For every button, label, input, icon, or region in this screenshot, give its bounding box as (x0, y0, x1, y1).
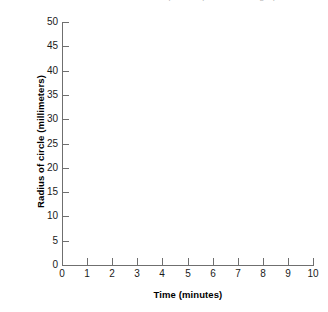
y-axis-title: Radius of circle (millimeters) (35, 27, 46, 257)
x-axis-tick (137, 258, 138, 266)
x-axis-tick (213, 258, 214, 266)
y-axis-tick (62, 22, 69, 23)
x-axis-tick-label: 0 (52, 268, 72, 279)
y-axis-tick-label: 50 (33, 17, 58, 27)
y-axis-tick (62, 144, 69, 145)
x-axis-tick (87, 258, 88, 266)
y-axis-tick (62, 192, 69, 193)
x-axis-tick-label: 9 (278, 268, 298, 279)
x-axis-tick-label: 3 (127, 268, 147, 279)
x-axis-title: Time (minutes) (62, 289, 314, 300)
x-axis-tick-label: 5 (178, 268, 198, 279)
y-axis-tick (62, 168, 69, 169)
y-axis-tick-label-text: 50 (36, 17, 58, 27)
x-axis-tick (263, 258, 264, 266)
x-axis-tick-label: 6 (203, 268, 223, 279)
y-axis-tick (62, 95, 69, 96)
y-axis-tick (62, 71, 69, 72)
x-axis-tick-label: 4 (152, 268, 172, 279)
x-axis-tick (313, 258, 314, 266)
x-axis-tick-label: 8 (253, 268, 273, 279)
x-axis-tick (288, 258, 289, 266)
blank-coordinate-grid-chart: 05101520253035404550 012345678910 Time (… (0, 0, 328, 312)
y-axis-tick (62, 241, 69, 242)
plot-area (62, 22, 313, 265)
x-axis-tick-label: 1 (77, 268, 97, 279)
x-axis-tick-label: 2 (102, 268, 122, 279)
x-axis-tick-label: 10 (303, 268, 323, 279)
x-axis-tick (238, 258, 239, 266)
x-axis-tick (112, 258, 113, 266)
y-axis-tick (62, 119, 69, 120)
x-axis-tick (162, 258, 163, 266)
y-axis-tick (62, 46, 69, 47)
x-axis-tick-label: 7 (228, 268, 248, 279)
y-axis-tick (62, 216, 69, 217)
x-axis-tick (188, 258, 189, 266)
